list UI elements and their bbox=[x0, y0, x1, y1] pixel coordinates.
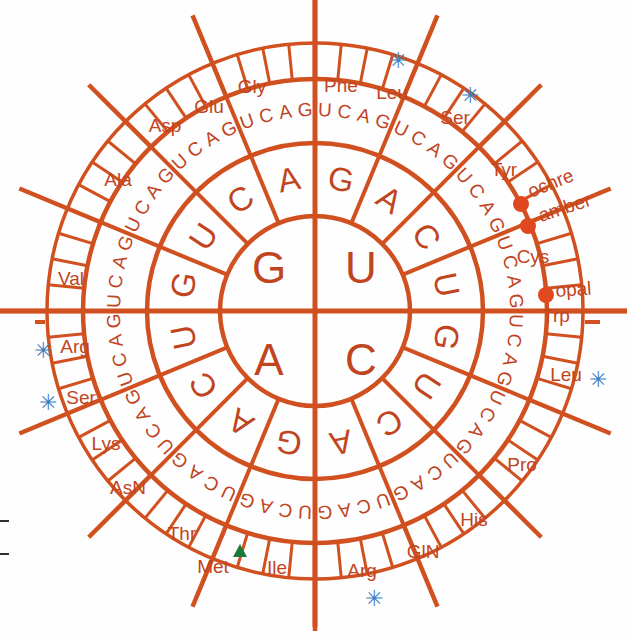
ring3-base-14: A bbox=[503, 274, 526, 290]
ring3-divider-50 bbox=[52, 259, 87, 266]
ring3-base-30: A bbox=[336, 499, 352, 522]
ring2-base-6: C bbox=[369, 401, 409, 445]
ring2-base-1: A bbox=[370, 178, 409, 221]
ring3-base-31: G bbox=[317, 501, 333, 523]
ring3-divider-29 bbox=[382, 533, 392, 567]
center-base-A: A bbox=[254, 335, 284, 384]
ring3-divider-7 bbox=[462, 104, 485, 132]
outer-ray-28 bbox=[404, 525, 438, 606]
ring3-divider-15 bbox=[546, 285, 582, 289]
ring3-divider-6 bbox=[444, 88, 464, 118]
outer-ray-36 bbox=[193, 525, 227, 606]
ring3-base-53: C bbox=[130, 196, 155, 219]
ring3-divider-49 bbox=[48, 285, 84, 289]
ring3-divider-55 bbox=[108, 141, 136, 164]
ring2-base-7: A bbox=[327, 422, 356, 463]
ring3-divider-61 bbox=[237, 55, 247, 89]
ring3-divider-18 bbox=[543, 356, 578, 363]
ring3-divider-10 bbox=[508, 162, 538, 182]
ring3-divider-27 bbox=[424, 516, 441, 548]
ring3-base-37: C bbox=[200, 471, 223, 496]
ring3-base-48: U bbox=[103, 294, 125, 309]
ring2-base-2: C bbox=[405, 216, 449, 256]
ring3-divider-5 bbox=[424, 75, 441, 107]
ring2-base-13: U bbox=[181, 216, 225, 256]
ring3-divider-42 bbox=[92, 440, 122, 460]
ring3-base-63: G bbox=[297, 99, 313, 121]
ring3-base-33: C bbox=[277, 499, 294, 522]
ring3-divider-53 bbox=[79, 185, 111, 202]
ring3-base-61: C bbox=[257, 104, 275, 128]
ring3-base-16: U bbox=[505, 314, 527, 329]
ring3-divider-2 bbox=[360, 48, 367, 83]
ring3-base-62: A bbox=[278, 100, 294, 123]
ring3-base-9: C bbox=[464, 179, 489, 203]
ring3-divider-41 bbox=[108, 458, 136, 481]
ring3-base-42: A bbox=[130, 403, 155, 425]
ring2-base-8: G bbox=[273, 422, 305, 463]
ring2-base-4: G bbox=[426, 321, 467, 353]
ring3-divider-63 bbox=[289, 44, 293, 80]
ring3-divider-17 bbox=[546, 334, 582, 338]
ring3-divider-31 bbox=[338, 542, 342, 578]
outer-ray-40 bbox=[89, 475, 151, 537]
ring3-divider-51 bbox=[59, 233, 93, 243]
ring3-base-10: A bbox=[476, 197, 501, 219]
ring3-base-45: C bbox=[108, 351, 132, 369]
ring3-base-57: C bbox=[183, 137, 207, 162]
outer-ray-24 bbox=[479, 475, 541, 537]
ring3-divider-23 bbox=[494, 458, 522, 481]
ring3-base-29: C bbox=[355, 495, 373, 519]
ring3-base-58: A bbox=[201, 126, 223, 151]
ring3-divider-25 bbox=[462, 490, 485, 518]
ring2-base-5: U bbox=[405, 365, 449, 405]
ring3-divider-37 bbox=[189, 516, 206, 548]
outer-ray-52 bbox=[19, 189, 100, 223]
ring2-base-14: C bbox=[220, 177, 260, 221]
ring3-divider-22 bbox=[508, 440, 538, 460]
ring3-divider-34 bbox=[263, 539, 270, 574]
ring2-base-15: A bbox=[274, 159, 303, 200]
ring3-divider-13 bbox=[537, 233, 571, 243]
ring3-divider-46 bbox=[52, 356, 87, 363]
ring3-divider-11 bbox=[520, 185, 552, 202]
ring2-base-12: G bbox=[163, 269, 204, 301]
outer-ray-56 bbox=[89, 85, 151, 147]
ring3-divider-19 bbox=[537, 378, 571, 388]
ring3-divider-35 bbox=[237, 533, 247, 567]
ring3-divider-33 bbox=[289, 542, 293, 578]
outer-ray-44 bbox=[19, 400, 100, 434]
ring3-divider-14 bbox=[543, 259, 578, 266]
ring3-base-49: C bbox=[104, 273, 127, 290]
ring3-divider-39 bbox=[145, 490, 168, 518]
ring3-base-1: C bbox=[336, 100, 353, 123]
ring3-base-46: A bbox=[104, 332, 127, 348]
ring3-base-17: C bbox=[503, 332, 526, 349]
ring3-divider-9 bbox=[494, 141, 522, 164]
code-wheel-svg: GUACGACUGUCAGACUGUCAUCAGUCAGUCAGUCAGUCAG… bbox=[0, 0, 627, 641]
ring3-divider-57 bbox=[145, 104, 168, 132]
ring3-divider-47 bbox=[48, 334, 84, 338]
outer-ray-8 bbox=[479, 85, 541, 147]
ring2-base-10: C bbox=[181, 365, 225, 405]
ring3-base-41: C bbox=[141, 419, 166, 443]
ring3-base-25: C bbox=[423, 460, 447, 485]
ring2-base-0: G bbox=[325, 159, 357, 200]
ring3-base-18: A bbox=[499, 351, 523, 369]
outer-ray-20 bbox=[529, 400, 610, 434]
outer-ray-12 bbox=[529, 189, 610, 223]
ring2-base-11: U bbox=[163, 322, 204, 353]
ring3-divider-59 bbox=[189, 75, 206, 107]
ring3-divider-45 bbox=[59, 378, 93, 388]
ring3-divider-58 bbox=[166, 88, 186, 118]
ring3-base-32: U bbox=[298, 501, 313, 523]
outer-ray-4 bbox=[404, 15, 438, 96]
ring3-divider-30 bbox=[360, 539, 367, 574]
ring3-base-21: C bbox=[475, 403, 500, 426]
ring3-divider-43 bbox=[79, 420, 111, 437]
ring3-divider-62 bbox=[263, 48, 270, 83]
ring3-base-2: A bbox=[355, 104, 373, 128]
ring3-base-0: U bbox=[318, 99, 333, 121]
ring3-divider-38 bbox=[166, 504, 186, 534]
ring3-divider-3 bbox=[382, 55, 392, 89]
